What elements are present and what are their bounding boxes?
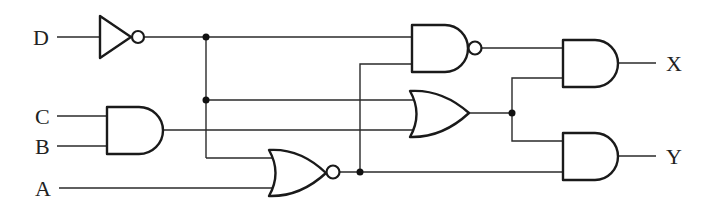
junctions [203, 34, 516, 176]
wire-andy-in1 [512, 113, 563, 141]
nand-gate [412, 25, 482, 72]
or-gate [410, 91, 469, 137]
junction-dot [357, 169, 364, 176]
nor-gate [269, 150, 340, 196]
and-gate-y [563, 133, 618, 180]
junction-dot [203, 34, 210, 41]
junction-dot [203, 97, 210, 104]
input-label-b: B [35, 134, 50, 159]
input-label-c: C [35, 104, 50, 129]
output-label-y: Y [666, 144, 682, 169]
output-label-x: X [666, 51, 682, 76]
not-gate [100, 16, 144, 58]
input-label-d: D [33, 25, 49, 50]
wire-andx-in2 [512, 78, 563, 113]
wire-nand-in2 [360, 64, 412, 172]
and-gate-x [563, 40, 618, 87]
junction-dot [509, 110, 516, 117]
input-label-a: A [35, 176, 51, 201]
and-gate-cb [107, 107, 163, 154]
logic-circuit-diagram: D C B A X Y [0, 0, 717, 218]
